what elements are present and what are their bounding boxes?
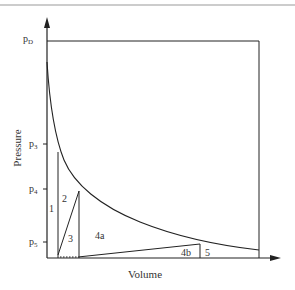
y-axis-title: Pressure	[11, 124, 23, 172]
label-pd: pD	[23, 34, 33, 47]
label-p5: p5	[29, 237, 38, 250]
pv-diagram	[0, 0, 295, 290]
region-label-3: 3	[68, 234, 73, 244]
region-label-4b: 4b	[181, 248, 191, 258]
label-p4: p4	[29, 184, 38, 197]
region-label-1: 1	[49, 204, 54, 214]
region-label-5: 5	[205, 248, 210, 258]
x-axis-title: Volume	[128, 268, 162, 280]
label-p3: p3	[29, 139, 38, 152]
y-axis-arrow-icon	[44, 17, 50, 28]
region-label-4a: 4a	[95, 231, 104, 241]
x-axis-arrow-icon	[270, 255, 281, 261]
region-label-2: 2	[62, 194, 67, 204]
